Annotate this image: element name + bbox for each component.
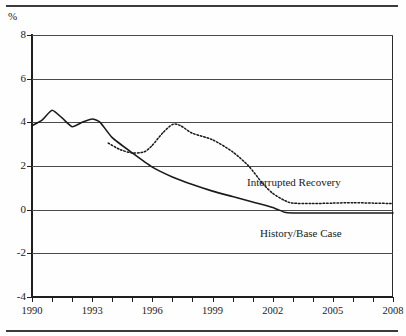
chart-figure: % 86420-2-4 1990199319961999200220052008… (0, 0, 406, 336)
series-line-history-base-case (32, 110, 393, 213)
series-line-interrupted-recovery (108, 124, 393, 203)
series-label-interrupted-recovery: Interrupted Recovery (247, 176, 341, 188)
series-layer (0, 0, 406, 336)
series-label-history-base-case: History/Base Case (260, 227, 342, 239)
